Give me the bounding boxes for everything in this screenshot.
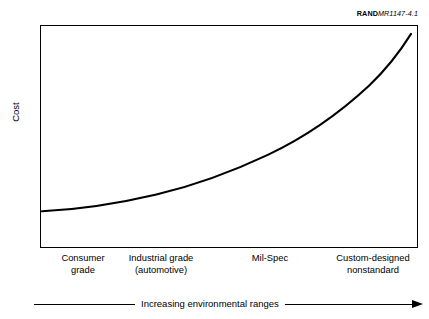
figure-source-number: MR1147-4.1 <box>378 9 418 18</box>
figure-source-label: RANDMR1147-4.1 <box>357 9 418 18</box>
figure-source-brand: RAND <box>357 9 378 18</box>
x-axis-tick-labels: Consumer grade Industrial grade (automot… <box>40 252 418 286</box>
caption-rule-left <box>34 304 135 305</box>
cost-curve-path <box>42 34 411 211</box>
plot-frame <box>40 25 418 248</box>
x-axis-caption: Increasing environmental ranges <box>34 296 423 312</box>
cost-curve <box>41 26 417 247</box>
y-axis-label: Cost <box>10 102 21 122</box>
x-tick-custom-designed: Custom-designed nonstandard <box>313 252 429 275</box>
caption-rule-right <box>285 304 413 305</box>
x-tick-mil-spec: Mil-Spec <box>210 252 330 264</box>
x-axis-caption-text: Increasing environmental ranges <box>135 299 285 309</box>
x-tick-industrial-grade: Industrial grade (automotive) <box>101 252 221 275</box>
arrow-right-icon <box>412 300 423 308</box>
